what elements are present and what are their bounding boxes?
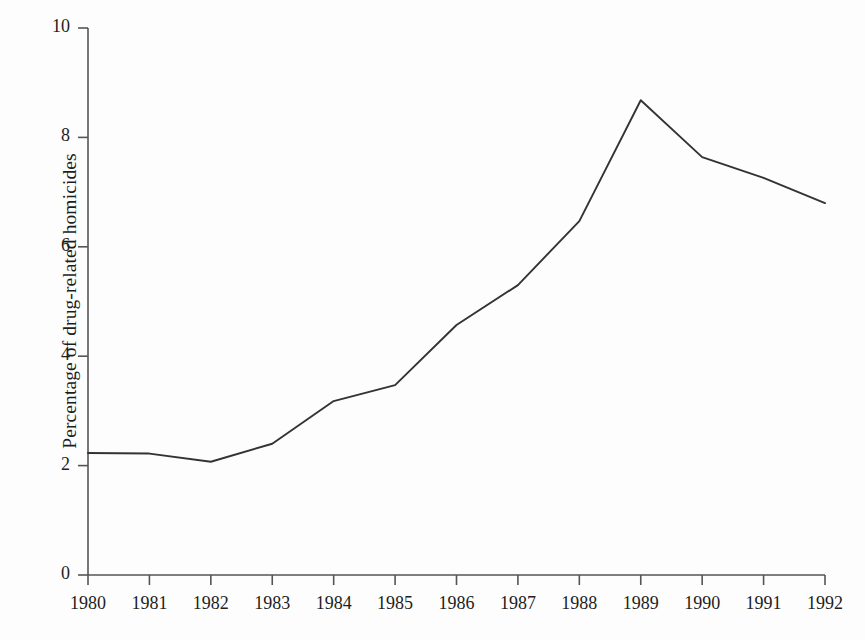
line-chart-figure: Percentage of drug-related homicides 024… bbox=[0, 0, 865, 640]
x-axis-tick-label: 1990 bbox=[667, 593, 737, 614]
y-axis-tick-label: 0 bbox=[30, 563, 70, 584]
x-axis-tick-label: 1982 bbox=[176, 593, 246, 614]
y-axis-tick-label: 8 bbox=[30, 125, 70, 146]
x-axis-tick-label: 1986 bbox=[422, 593, 492, 614]
x-axis-ticks bbox=[88, 575, 825, 585]
chart-plot-area bbox=[0, 0, 865, 640]
x-axis-tick-label: 1985 bbox=[360, 593, 430, 614]
x-axis-tick-label: 1984 bbox=[299, 593, 369, 614]
x-axis-tick-label: 1991 bbox=[729, 593, 799, 614]
x-axis-tick-label: 1989 bbox=[606, 593, 676, 614]
data-series-line bbox=[88, 100, 825, 462]
x-axis-tick-label: 1981 bbox=[114, 593, 184, 614]
x-axis-tick-label: 1980 bbox=[53, 593, 123, 614]
x-axis-tick-label: 1983 bbox=[237, 593, 307, 614]
x-axis-tick-label: 1988 bbox=[544, 593, 614, 614]
y-axis-tick-label: 10 bbox=[30, 16, 70, 37]
y-axis-tick-label: 2 bbox=[30, 454, 70, 475]
y-axis-tick-label: 4 bbox=[30, 344, 70, 365]
x-axis-tick-label: 1992 bbox=[790, 593, 860, 614]
y-axis-tick-label: 6 bbox=[30, 235, 70, 256]
x-axis-tick-label: 1987 bbox=[483, 593, 553, 614]
y-axis-title: Percentage of drug-related homicides bbox=[59, 111, 81, 491]
